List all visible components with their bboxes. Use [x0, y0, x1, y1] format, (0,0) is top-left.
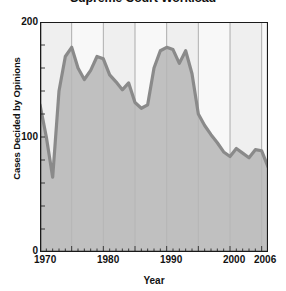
x-tick-label-1970: 1970 — [34, 254, 56, 265]
y-tick-label-200: 200 — [4, 17, 38, 27]
x-axis-label: Year — [40, 275, 268, 286]
x-tick-label-1980: 1980 — [97, 254, 119, 265]
x-axis-ticks: 1970 1980 1990 2000 2006 — [0, 254, 286, 270]
x-tick-label-2006: 2006 — [254, 254, 276, 265]
x-tick-label-1990: 1990 — [160, 254, 182, 265]
chart-figure: Supreme Court Workload Cases Decided by … — [0, 0, 286, 291]
chart-title: Supreme Court Workload — [0, 0, 286, 5]
y-axis-ticks: 200 100 0 — [0, 0, 38, 291]
line-chart-svg — [40, 22, 268, 252]
y-tick-label-100: 100 — [4, 132, 38, 142]
plot-area — [40, 22, 268, 252]
x-tick-label-2000: 2000 — [223, 254, 245, 265]
